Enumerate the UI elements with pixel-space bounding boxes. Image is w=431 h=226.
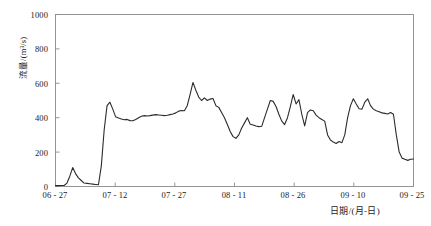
plot-canvas	[0, 0, 431, 226]
plot-frame	[56, 15, 414, 187]
data-series-line	[56, 82, 414, 185]
flow-discharge-chart: 流量/(m³/s) 日期/(月-日) 1000 800 600 400 200 …	[0, 0, 431, 226]
y-tick-marks	[56, 15, 60, 187]
x-tick-marks	[56, 183, 414, 187]
